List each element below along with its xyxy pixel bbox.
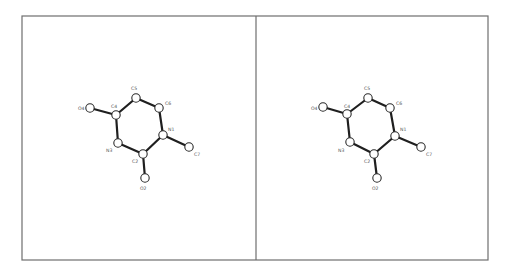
atom-label-n3: N3: [106, 148, 112, 153]
atom-label-c2: C2: [364, 159, 370, 164]
atom-c4: [112, 111, 120, 119]
atom-label-o4: O4: [311, 106, 318, 111]
atom-c6: [386, 104, 394, 112]
stereo-panel-left: O4C4C5C6N1C7C2N3O2: [78, 86, 200, 191]
atom-label-o2: O2: [140, 186, 147, 191]
frame-border: [22, 16, 488, 260]
atom-o4: [86, 104, 94, 112]
atom-n1: [391, 132, 399, 140]
atom-label-o4: O4: [78, 106, 85, 111]
atom-label-c2: C2: [132, 159, 138, 164]
molecule-stereo-drawing: O4C4C5C6N1C7C2N3O2 O4C4C5C6N1C7C2N3O2: [0, 0, 506, 275]
atom-c7: [417, 143, 425, 151]
atom-label-c6: C6: [165, 101, 171, 106]
atom-label-c5: C5: [364, 86, 370, 91]
atom-o2: [141, 174, 149, 182]
atom-c5: [132, 94, 140, 102]
atom-label-n3: N3: [338, 148, 344, 153]
atom-c7: [185, 143, 193, 151]
atom-c2: [139, 150, 147, 158]
atom-c5: [364, 94, 372, 102]
atom-label-c4: C4: [111, 104, 117, 109]
atom-n3: [114, 139, 122, 147]
atom-label-c5: C5: [131, 86, 137, 91]
atom-label-o2: O2: [372, 186, 379, 191]
atom-label-n1: N1: [168, 127, 174, 132]
atom-o2: [373, 174, 381, 182]
atom-label-c7: C7: [426, 152, 432, 157]
atom-o4: [319, 103, 327, 111]
atom-n3: [346, 138, 354, 146]
atom-label-c6: C6: [396, 101, 402, 106]
atom-label-c4: C4: [344, 104, 350, 109]
atom-c2: [370, 150, 378, 158]
atom-label-c7: C7: [194, 152, 200, 157]
stereo-figure: O4C4C5C6N1C7C2N3O2 O4C4C5C6N1C7C2N3O2: [0, 0, 506, 275]
atom-c6: [155, 104, 163, 112]
atom-n1: [159, 131, 167, 139]
stereo-panel-right: O4C4C5C6N1C7C2N3O2: [311, 86, 432, 191]
atom-label-n1: N1: [400, 127, 406, 132]
figure-frame: [22, 16, 488, 260]
atom-c4: [343, 110, 351, 118]
